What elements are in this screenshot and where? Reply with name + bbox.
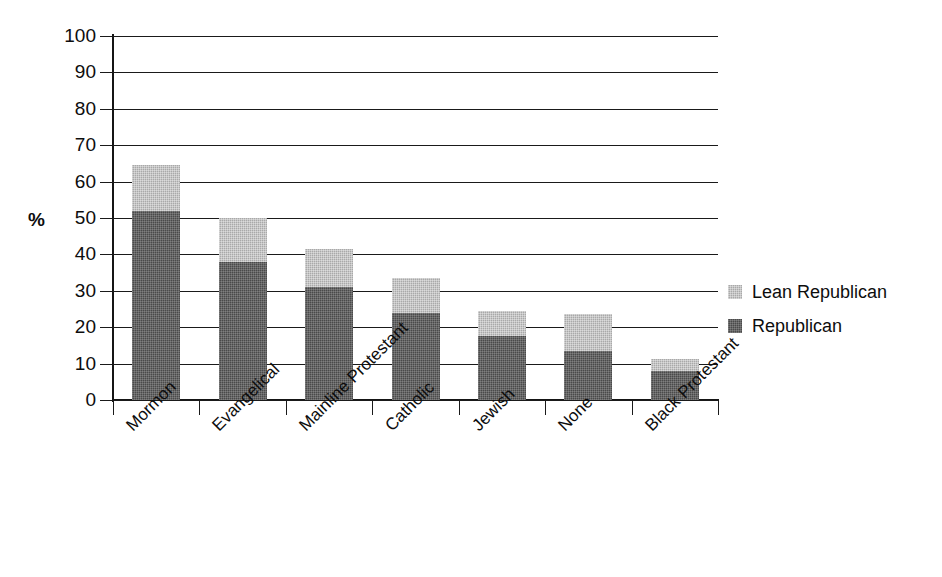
bar-segment-republican [564,351,612,400]
y-axis-tick [100,364,112,365]
gridline [113,254,718,255]
x-axis-tick [632,401,633,415]
gridline [113,72,718,73]
bar-segment-lean-republican [392,278,440,313]
y-axis-tick-label: 0 [50,390,96,409]
y-axis-tick [100,109,112,110]
y-axis-tick-label: 80 [50,99,96,118]
x-axis-tick [372,401,373,415]
x-axis-tick [545,401,546,415]
y-axis-tick [100,400,112,401]
legend-label: Lean Republican [752,283,887,301]
bar-segment-lean-republican [305,249,353,287]
gridline [113,109,718,110]
y-axis-tick-label: 60 [50,172,96,191]
plot-area [113,36,718,400]
legend-item-republican[interactable]: Republican [728,309,928,343]
y-axis-tick [100,291,112,292]
legend-label: Republican [752,317,842,335]
y-axis-tick-label: 50 [50,208,96,227]
y-axis-tick-label: 20 [50,317,96,336]
y-axis-tick-labels: 0102030405060708090100 [0,0,96,440]
bar-segment-lean-republican [564,314,612,350]
bar-none [564,314,612,400]
y-axis-tick [100,254,112,255]
y-axis-tick [100,145,112,146]
x-axis-tick [718,401,719,415]
gridline [113,218,718,219]
x-axis-tick [199,401,200,415]
bar-segment-republican [132,211,180,400]
y-axis-tick [100,327,112,328]
bar-segment-lean-republican [478,311,526,336]
x-axis-tick [459,401,460,415]
gridline [113,145,718,146]
y-axis-tick [100,182,112,183]
legend-item-lean-republican[interactable]: Lean Republican [728,275,928,309]
y-axis-tick-label: 70 [50,135,96,154]
y-axis-tick-label: 30 [50,281,96,300]
y-axis-tick [100,72,112,73]
legend: Lean Republican Republican [728,275,928,343]
chart-container: % 0102030405060708090100 MormonEvangelic… [0,0,942,577]
x-axis-tick [286,401,287,415]
y-axis-tick-label: 100 [50,26,96,45]
bar-mormon [132,165,180,400]
x-axis-tick [113,401,114,415]
legend-swatch-icon-lean-republican [728,285,742,299]
gridline [113,36,718,37]
legend-swatch-icon-republican [728,319,742,333]
bar-segment-lean-republican [132,165,180,211]
bar-segment-lean-republican [219,218,267,262]
y-axis-tick [100,36,112,37]
y-axis-tick-label: 10 [50,354,96,373]
gridline [113,182,718,183]
y-axis-tick-label: 90 [50,62,96,81]
y-axis-tick-label: 40 [50,244,96,263]
y-axis-tick [100,218,112,219]
